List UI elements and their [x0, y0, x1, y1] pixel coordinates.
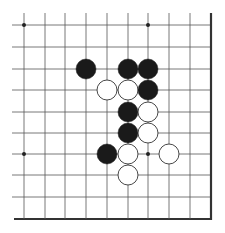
white-stone: [118, 80, 138, 100]
white-stone: [118, 144, 138, 164]
white-stone: [118, 165, 138, 185]
white-stone: [138, 123, 158, 143]
black-stone: [138, 80, 158, 100]
black-stone: [97, 144, 117, 164]
white-stone: [159, 144, 179, 164]
white-stone: [138, 102, 158, 122]
star-point: [146, 23, 150, 27]
stones: [76, 59, 179, 185]
star-point: [22, 23, 26, 27]
go-board: [0, 0, 225, 233]
black-stone: [118, 59, 138, 79]
grid-lines: [12, 13, 211, 220]
star-point: [22, 152, 26, 156]
black-stone: [76, 59, 96, 79]
black-stone: [138, 59, 158, 79]
white-stone: [97, 80, 117, 100]
black-stone: [118, 102, 138, 122]
star-point: [146, 152, 150, 156]
black-stone: [118, 123, 138, 143]
